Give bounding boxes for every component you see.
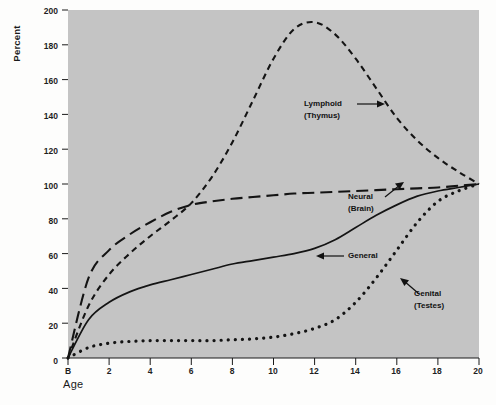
y-axis-title: Percent: [11, 14, 22, 74]
annotation-general: General: [348, 250, 378, 262]
x-tick-label: 16: [384, 366, 408, 376]
annotation-genital-line1: Genital: [414, 289, 441, 298]
annotation-lymphoid: Lymphoid (Thymus): [304, 98, 342, 122]
annotation-genital-line2: (Testes): [414, 300, 444, 312]
annotation-general-line1: General: [348, 251, 378, 260]
x-tick-label: B: [56, 366, 80, 376]
plot-canvas: [0, 0, 496, 405]
y-tick-label: 60: [28, 251, 58, 261]
y-tick-label: 100: [28, 181, 58, 191]
y-tick-label: 0: [28, 356, 58, 366]
x-tick-label: 18: [425, 366, 449, 376]
x-tick-label: 8: [220, 366, 244, 376]
y-tick-label: 180: [28, 41, 58, 51]
y-tick-label: 120: [28, 146, 58, 156]
x-axis-title: Age: [63, 378, 83, 390]
x-tick-label: 4: [138, 366, 162, 376]
x-tick-label: 20: [466, 366, 490, 376]
x-tick-label: 6: [179, 366, 203, 376]
y-tick-label: 20: [28, 321, 58, 331]
y-tick-label: 160: [28, 76, 58, 86]
x-tick-label: 10: [261, 366, 285, 376]
annotation-genital: Genital (Testes): [414, 288, 444, 312]
growth-curves-figure: Percent Age 200 180 160 140 120 100 80 6…: [0, 0, 496, 405]
annotation-neural-line1: Neural: [348, 192, 373, 201]
y-tick-label: 80: [28, 216, 58, 226]
y-tick-label: 40: [28, 286, 58, 296]
annotation-neural: Neural (Brain): [348, 191, 374, 215]
annotation-lymphoid-line1: Lymphoid: [304, 99, 342, 108]
x-tick-label: 2: [97, 366, 121, 376]
y-tick-label: 200: [28, 6, 58, 16]
x-tick-label: 12: [302, 366, 326, 376]
y-tick-label: 140: [28, 111, 58, 121]
annotation-neural-line2: (Brain): [348, 203, 374, 215]
annotation-lymphoid-line2: (Thymus): [304, 110, 342, 122]
x-tick-label: 14: [343, 366, 367, 376]
